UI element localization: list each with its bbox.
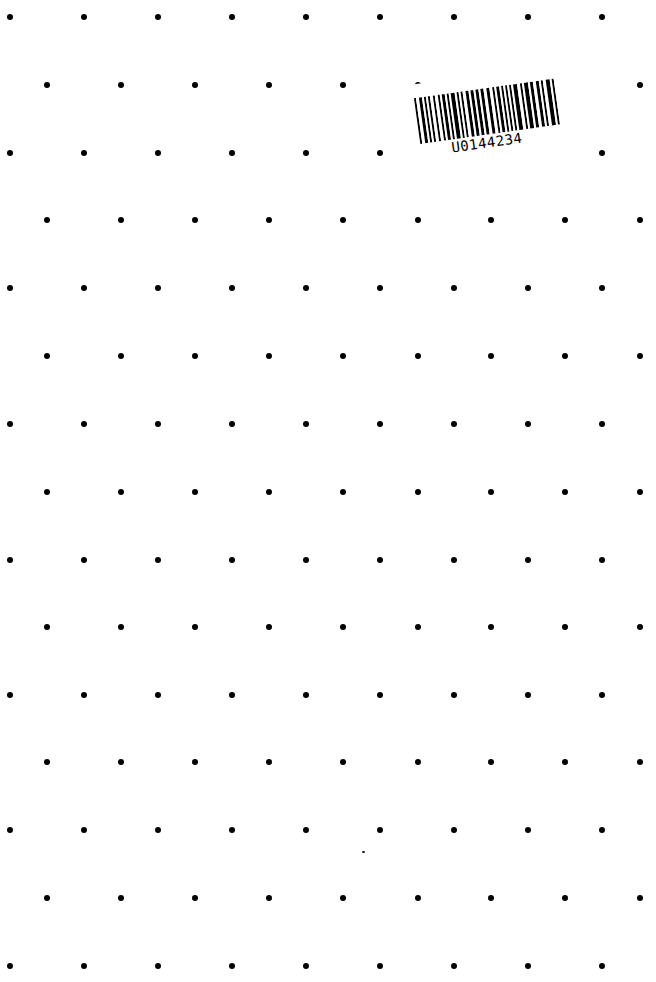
grid-dot: [377, 14, 383, 20]
grid-dot: [44, 624, 50, 630]
grid-dot: [488, 759, 494, 765]
grid-dot: [488, 624, 494, 630]
grid-dot: [562, 489, 568, 495]
grid-dot: [451, 285, 457, 291]
grid-dot: [415, 353, 421, 359]
grid-dot: [155, 963, 161, 969]
grid-dot: [81, 421, 87, 427]
paper-speck: [362, 851, 365, 853]
grid-dot: [192, 489, 198, 495]
grid-dot: [451, 827, 457, 833]
grid-dot: [340, 489, 346, 495]
grid-dot: [637, 895, 643, 901]
grid-dot: [229, 14, 235, 20]
grid-dot: [303, 285, 309, 291]
grid-dot: [229, 150, 235, 156]
grid-dot: [44, 489, 50, 495]
grid-dot: [525, 14, 531, 20]
grid-dot: [377, 963, 383, 969]
grid-dot: [599, 557, 605, 563]
grid-dot: [340, 895, 346, 901]
grid-dot: [415, 759, 421, 765]
grid-dot: [637, 759, 643, 765]
grid-dot: [525, 557, 531, 563]
grid-dot: [81, 827, 87, 833]
grid-dot: [377, 150, 383, 156]
grid-dot: [599, 692, 605, 698]
grid-dot: [7, 827, 13, 833]
grid-dot: [118, 624, 124, 630]
grid-dot: [229, 421, 235, 427]
grid-dot: [266, 217, 272, 223]
grid-dot: [451, 692, 457, 698]
grid-dot: [637, 217, 643, 223]
grid-dot: [599, 963, 605, 969]
grid-dot: [81, 963, 87, 969]
grid-dot: [377, 827, 383, 833]
grid-dot: [415, 217, 421, 223]
grid-dot: [192, 759, 198, 765]
grid-dot: [303, 14, 309, 20]
grid-dot: [118, 489, 124, 495]
grid-dot: [637, 624, 643, 630]
grid-dot: [377, 557, 383, 563]
grid-dot: [7, 963, 13, 969]
grid-dot: [118, 217, 124, 223]
grid-dot: [451, 963, 457, 969]
grid-dot: [192, 895, 198, 901]
grid-dot: [155, 827, 161, 833]
grid-dot: [415, 489, 421, 495]
grid-dot: [599, 285, 605, 291]
grid-dot: [81, 692, 87, 698]
grid-dot: [488, 217, 494, 223]
grid-dot: [451, 421, 457, 427]
grid-dot: [229, 827, 235, 833]
grid-dot: [488, 895, 494, 901]
grid-dot: [118, 353, 124, 359]
grid-dot: [415, 624, 421, 630]
grid-dot: [599, 827, 605, 833]
grid-dot: [44, 82, 50, 88]
grid-dot: [377, 285, 383, 291]
grid-dot: [7, 285, 13, 291]
grid-dot: [266, 489, 272, 495]
grid-dot: [155, 557, 161, 563]
grid-dot: [525, 692, 531, 698]
grid-dot: [266, 624, 272, 630]
grid-dot: [229, 963, 235, 969]
grid-dot: [415, 895, 421, 901]
grid-dot: [562, 353, 568, 359]
grid-dot: [7, 421, 13, 427]
grid-dot: [525, 963, 531, 969]
grid-dot: [599, 421, 605, 427]
grid-dot: [599, 14, 605, 20]
grid-dot: [192, 217, 198, 223]
grid-dot: [303, 150, 309, 156]
grid-dot: [340, 759, 346, 765]
grid-dot: [340, 353, 346, 359]
grid-dot: [303, 963, 309, 969]
grid-dot: [303, 827, 309, 833]
grid-dot: [303, 557, 309, 563]
grid-dot: [266, 759, 272, 765]
grid-dot: [637, 353, 643, 359]
grid-dot: [525, 285, 531, 291]
grid-dot: [303, 692, 309, 698]
grid-dot: [155, 150, 161, 156]
grid-dot: [340, 624, 346, 630]
grid-dot: [488, 353, 494, 359]
grid-dot: [340, 217, 346, 223]
grid-dot: [155, 14, 161, 20]
grid-dot: [266, 353, 272, 359]
grid-dot: [155, 285, 161, 291]
grid-dot: [637, 82, 643, 88]
grid-dot: [44, 217, 50, 223]
grid-dot: [7, 557, 13, 563]
grid-dot: [525, 421, 531, 427]
grid-dot: [525, 827, 531, 833]
grid-dot: [7, 150, 13, 156]
grid-dot: [192, 353, 198, 359]
grid-dot: [229, 557, 235, 563]
grid-dot: [118, 759, 124, 765]
grid-dot: [44, 895, 50, 901]
